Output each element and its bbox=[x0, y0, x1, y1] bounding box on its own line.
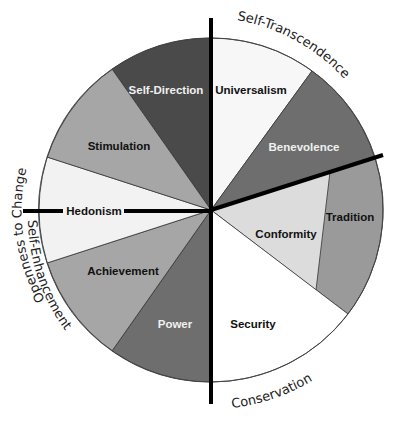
label-stimulation: Stimulation bbox=[88, 140, 151, 152]
label-power: Power bbox=[158, 318, 193, 330]
label-self-direction: Self-Direction bbox=[129, 84, 204, 96]
label-conformity: Conformity bbox=[255, 228, 317, 240]
values-circle-diagram: Self-Direction Universalism Benevolence … bbox=[0, 0, 405, 428]
label-universalism: Universalism bbox=[215, 84, 287, 96]
label-tradition: Tradition bbox=[326, 211, 375, 223]
label-hedonism: Hedonism bbox=[66, 205, 122, 217]
label-benevolence: Benevolence bbox=[269, 141, 340, 153]
label-security: Security bbox=[230, 318, 276, 330]
label-achievement: Achievement bbox=[87, 265, 159, 277]
